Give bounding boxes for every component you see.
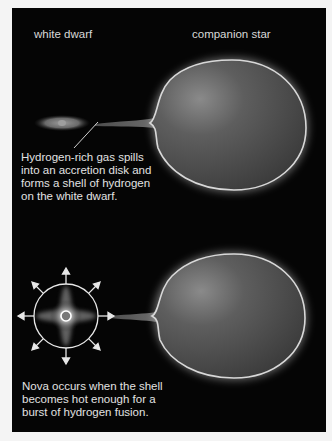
companion-star-label: companion star xyxy=(192,28,271,41)
white-dwarf-label: white dwarf xyxy=(34,28,92,41)
nova-caption: Nova occurs when the shell becomes hot e… xyxy=(22,380,163,419)
companion-star-lower xyxy=(152,254,305,378)
white-dwarf xyxy=(58,120,66,126)
diagram-panel: white dwarf companion star Hydrogen-rich… xyxy=(12,8,326,432)
accretion-caption: Hydrogen-rich gas spills into an accreti… xyxy=(21,151,151,203)
diagram-artwork xyxy=(12,8,326,432)
lower-scene xyxy=(18,252,307,380)
nova-burst xyxy=(18,268,114,364)
gas-stream xyxy=(95,118,155,128)
